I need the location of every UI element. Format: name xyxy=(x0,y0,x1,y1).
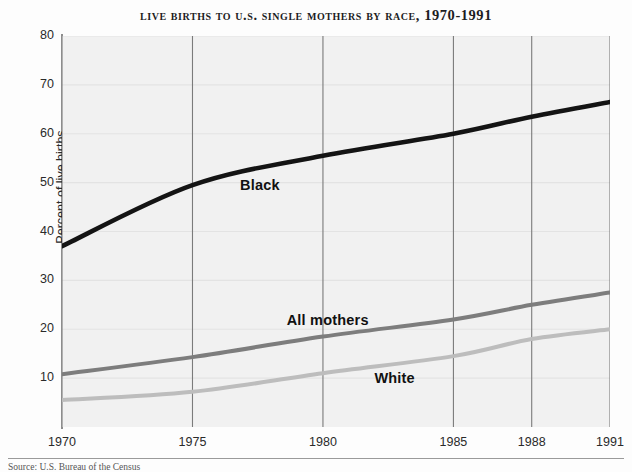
source-note: Source: U.S. Bureau of the Census xyxy=(8,462,140,472)
y-tick-label: 60 xyxy=(8,126,54,140)
x-tick-label: 1975 xyxy=(167,435,219,449)
y-tick-label: 80 xyxy=(8,28,54,42)
y-tick-label: 50 xyxy=(8,175,54,189)
chart-title: Live Births to U.S. Single Mothers by Ra… xyxy=(0,7,632,24)
chart-figure: Live Births to U.S. Single Mothers by Ra… xyxy=(0,0,632,472)
x-tick-label: 1980 xyxy=(297,435,349,449)
series-line-all-mothers xyxy=(62,293,610,375)
y-tick-label: 10 xyxy=(8,370,54,384)
series-label-black: Black xyxy=(240,177,280,193)
plot-area xyxy=(62,36,610,427)
source-divider xyxy=(8,458,624,459)
x-tick-label: 1988 xyxy=(506,435,558,449)
x-tick-label: 1991 xyxy=(584,435,632,449)
x-tick-label: 1970 xyxy=(36,435,88,449)
series-label-all-mothers: All mothers xyxy=(287,312,369,328)
x-tick-label: 1985 xyxy=(427,435,479,449)
series-label-white: White xyxy=(374,370,414,386)
series-line-black xyxy=(62,102,610,246)
y-tick-label: 30 xyxy=(8,272,54,286)
plot-svg xyxy=(62,36,610,427)
y-tick-label: 40 xyxy=(8,224,54,238)
y-tick-label: 20 xyxy=(8,321,54,335)
y-tick-label: 70 xyxy=(8,77,54,91)
